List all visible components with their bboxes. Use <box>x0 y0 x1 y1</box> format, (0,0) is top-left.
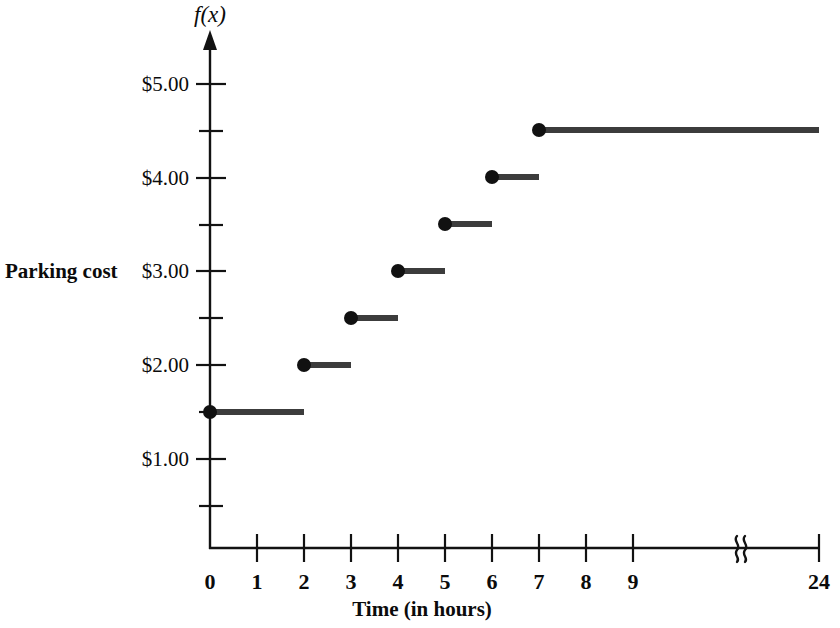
step-closed-endpoint-dot <box>485 170 499 184</box>
x-tick-label-3: 3 <box>346 569 357 594</box>
x-tick-label-4: 4 <box>393 569 404 594</box>
chart-svg: $5.00 $4.00 $3.00 $2.00 $1.00 Parking co… <box>0 0 840 628</box>
step-function-chart: $5.00 $4.00 $3.00 $2.00 $1.00 Parking co… <box>0 0 840 628</box>
step-closed-endpoint-dot <box>438 217 452 231</box>
step-closed-endpoint-dot <box>344 311 358 325</box>
y-tick-label-1: $1.00 <box>142 447 189 471</box>
x-tick-label-1: 1 <box>252 569 263 594</box>
step-closed-endpoint-dot <box>203 405 217 419</box>
step-closed-endpoint-dot <box>391 264 405 278</box>
step-closed-endpoint-dot <box>297 358 311 372</box>
y-tick-label-4: $4.00 <box>142 166 189 190</box>
y-axis-title: Parking cost <box>5 259 118 283</box>
y-tick-label-5: $5.00 <box>142 72 189 96</box>
x-tick-label-5: 5 <box>440 569 451 594</box>
y-tick-label-3: $3.00 <box>142 259 189 283</box>
x-tick-label-9: 9 <box>628 569 639 594</box>
x-tick-label-8: 8 <box>581 569 592 594</box>
x-tick-label-7: 7 <box>534 569 545 594</box>
x-tick-label-0: 0 <box>205 569 216 594</box>
x-tick-label-2: 2 <box>299 569 310 594</box>
step-closed-endpoint-dot <box>532 123 546 137</box>
y-tick-label-2: $2.00 <box>142 353 189 377</box>
x-tick-label-24: 24 <box>808 569 830 594</box>
x-axis-title: Time (in hours) <box>352 597 492 621</box>
y-axis-function-label: f(x) <box>194 2 226 27</box>
step-series <box>203 123 819 419</box>
x-tick-label-6: 6 <box>487 569 498 594</box>
